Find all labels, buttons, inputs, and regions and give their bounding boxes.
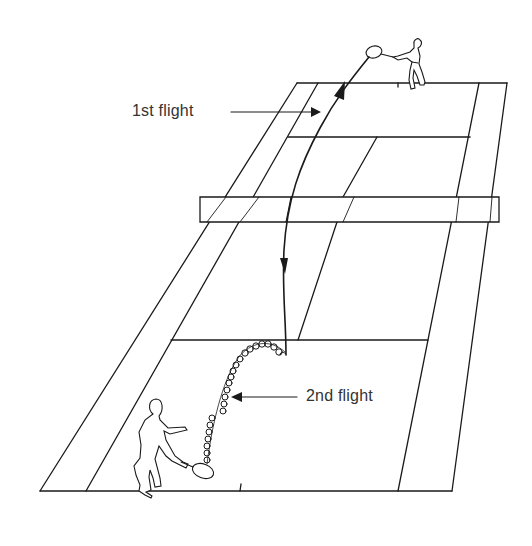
receiver-racket-head <box>190 461 215 482</box>
court-diagram: 1st flight 2nd flight <box>0 0 532 546</box>
second-flight-label: 2nd flight <box>306 387 373 405</box>
receiver-figure <box>134 399 216 498</box>
first-flight-label: 1st flight <box>132 102 194 120</box>
right-singles-sideline <box>398 83 479 491</box>
server-racket-head <box>365 44 384 60</box>
second-flight-arrow <box>231 392 297 402</box>
server-figure <box>365 39 425 89</box>
near-center-line <box>298 222 337 340</box>
far-center-line <box>343 137 377 197</box>
court-lines <box>40 83 507 491</box>
second-flight-path <box>204 341 286 464</box>
court-illustration <box>0 0 532 546</box>
right-doubles-sideline <box>452 83 507 491</box>
net <box>200 197 499 222</box>
